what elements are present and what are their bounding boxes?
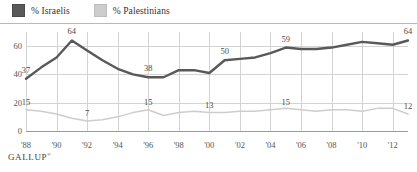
x-tick-label-1994: '94 <box>113 140 123 150</box>
point-label-palestinians-1996: 15 <box>144 97 153 107</box>
point-label-palestinians-2000: 13 <box>205 100 214 110</box>
point-label-israelis-2013: 64 <box>404 26 413 36</box>
plot-area: 0204060 37643850596415715131512 '88'90'9… <box>0 26 417 146</box>
x-tick-label-1990: '90 <box>52 140 62 150</box>
point-label-israelis-2001: 50 <box>220 46 229 56</box>
source-label: GALLUP <box>8 152 47 162</box>
x-tick-label-2010: '10 <box>357 140 367 150</box>
point-label-israelis-1988: 37 <box>22 65 31 75</box>
x-tick-label-2004: '04 <box>265 140 275 150</box>
legend-swatch-palestinians-icon <box>94 4 107 17</box>
point-label-palestinians-2013: 12 <box>404 101 413 111</box>
point-label-israelis-1996: 38 <box>144 63 153 73</box>
legend-swatch-israelis-icon <box>12 4 25 17</box>
point-label-palestinians-1988: 15 <box>22 97 31 107</box>
legend-label-israelis: % Israelis <box>31 6 70 16</box>
x-tick-label-1992: '92 <box>82 140 92 150</box>
x-tick-label-2008: '08 <box>327 140 337 150</box>
line-israelis <box>26 40 408 78</box>
x-tick-label-2012: '12 <box>388 140 398 150</box>
point-label-israelis-2005: 59 <box>282 34 291 44</box>
chart-container: % Israelis % Palestinians 0204060 376438… <box>0 0 417 172</box>
point-label-palestinians-2005: 15 <box>282 97 291 107</box>
line-palestinians <box>26 108 408 121</box>
point-label-palestinians-1992: 7 <box>85 108 89 118</box>
x-tick-label-1998: '98 <box>174 140 184 150</box>
x-tick-label-1996: '96 <box>143 140 153 150</box>
x-tick-label-1988: '88 <box>21 140 31 150</box>
series-lines <box>0 26 417 146</box>
x-tick-label-2000: '00 <box>204 140 214 150</box>
legend-label-palestinians: % Palestinians <box>113 6 170 16</box>
legend-divider <box>0 23 417 24</box>
point-label-israelis-1991: 64 <box>68 26 77 36</box>
trademark-symbol: ® <box>47 152 51 157</box>
x-tick-label-2006: '06 <box>296 140 306 150</box>
legend-item-palestinians[interactable]: % Palestinians <box>94 4 170 17</box>
source-attribution: GALLUP® <box>8 152 51 162</box>
legend-item-israelis[interactable]: % Israelis <box>12 4 70 17</box>
x-tick-label-2002: '02 <box>235 140 245 150</box>
chart-legend: % Israelis % Palestinians <box>12 4 194 17</box>
